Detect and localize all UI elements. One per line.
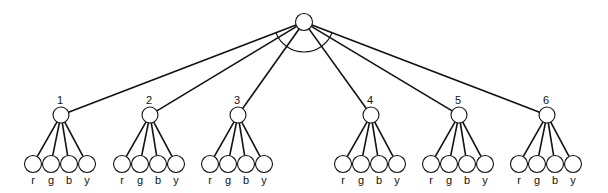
- leaf-node-1-b: [61, 156, 78, 173]
- leaf-label-r: r: [517, 174, 521, 186]
- leaf-node-4-b: [371, 156, 388, 173]
- leaf-label-r: r: [120, 174, 124, 186]
- leaf-node-1-r: [25, 156, 42, 173]
- edge-root-to-node-2: [157, 26, 297, 110]
- node-6: [539, 107, 555, 123]
- leaf-node-2-b: [150, 156, 167, 173]
- node-label-4: 4: [367, 94, 373, 106]
- edge-node-6-to-b: [548, 123, 553, 156]
- leaf-node-6-y: [565, 156, 582, 173]
- edge-root-to-node-3: [243, 29, 299, 109]
- leaf-label-g: g: [358, 174, 364, 186]
- leaf-node-5-y: [477, 156, 494, 173]
- leaf-node-2-g: [132, 156, 149, 173]
- leaf-label-r: r: [208, 174, 212, 186]
- leaf-node-4-r: [335, 156, 352, 173]
- leaf-node-3-r: [202, 156, 219, 173]
- leaf-label-r: r: [429, 174, 433, 186]
- node-label-1: 1: [57, 94, 63, 106]
- leaf-label-b: b: [464, 174, 470, 186]
- edge-root-to-node-5: [311, 26, 452, 111]
- edge-node-3-to-b: [239, 123, 244, 156]
- leaf-label-y: y: [84, 174, 90, 186]
- leaf-node-2-r: [114, 156, 131, 173]
- leaf-node-3-y: [256, 156, 273, 173]
- node-5: [451, 107, 467, 123]
- leaf-label-g: g: [48, 174, 54, 186]
- leaf-label-b: b: [66, 174, 72, 186]
- node-2: [142, 107, 158, 123]
- leaf-node-5-g: [441, 156, 458, 173]
- edge-node-4-to-b: [372, 123, 377, 156]
- leaf-label-y: y: [570, 174, 576, 186]
- leaf-label-g: g: [446, 174, 452, 186]
- leaf-label-y: y: [173, 174, 179, 186]
- leaf-label-b: b: [155, 174, 161, 186]
- leaf-label-b: b: [376, 174, 382, 186]
- leaf-label-b: b: [243, 174, 249, 186]
- leaf-node-5-b: [459, 156, 476, 173]
- leaf-node-4-g: [353, 156, 370, 173]
- leaf-node-6-g: [529, 156, 546, 173]
- leaf-node-6-r: [511, 156, 528, 173]
- node-1: [53, 107, 69, 123]
- leaf-label-g: g: [137, 174, 143, 186]
- edges: [37, 25, 569, 157]
- leaf-node-3-b: [238, 156, 255, 173]
- nodes: [25, 14, 582, 173]
- edge-node-5-to-b: [460, 123, 465, 156]
- root-node: [296, 14, 313, 31]
- leaf-node-1-g: [43, 156, 60, 173]
- tree-diagram: 1rgby2rgby3rgby4rgby5rgby6rgby: [0, 0, 608, 193]
- node-label-3: 3: [234, 94, 240, 106]
- node-4: [363, 107, 379, 123]
- node-label-6: 6: [543, 94, 549, 106]
- labels: 1rgby2rgby3rgby4rgby5rgby6rgby: [31, 94, 576, 186]
- leaf-label-b: b: [552, 174, 558, 186]
- node-label-2: 2: [146, 94, 152, 106]
- leaf-label-g: g: [225, 174, 231, 186]
- node-label-5: 5: [455, 94, 461, 106]
- leaf-node-6-b: [547, 156, 564, 173]
- leaf-label-y: y: [394, 174, 400, 186]
- edge-root-to-node-6: [312, 25, 540, 112]
- edge-node-2-to-b: [151, 123, 156, 156]
- edge-node-1-to-b: [62, 123, 67, 156]
- edge-root-to-node-1: [68, 25, 296, 112]
- leaf-label-g: g: [534, 174, 540, 186]
- leaf-node-2-y: [168, 156, 185, 173]
- leaf-node-3-g: [220, 156, 237, 173]
- leaf-node-1-y: [79, 156, 96, 173]
- node-3: [230, 107, 246, 123]
- leaf-label-r: r: [31, 174, 35, 186]
- edge-root-to-node-4: [309, 29, 366, 109]
- leaf-node-4-y: [389, 156, 406, 173]
- leaf-label-y: y: [482, 174, 488, 186]
- leaf-node-5-r: [423, 156, 440, 173]
- tree-diagram-canvas: 1rgby2rgby3rgby4rgby5rgby6rgby: [0, 0, 608, 193]
- leaf-label-y: y: [261, 174, 267, 186]
- leaf-label-r: r: [341, 174, 345, 186]
